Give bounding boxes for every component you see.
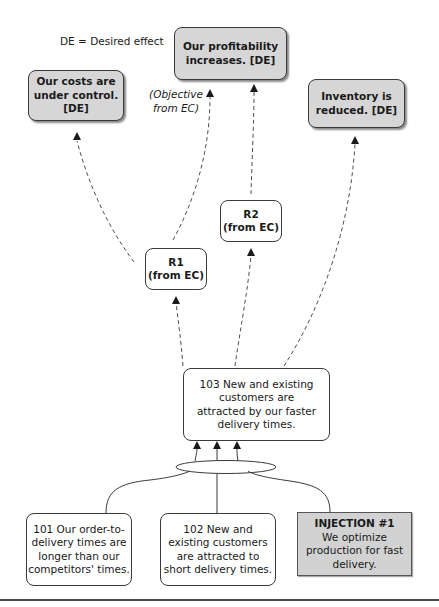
line-ellipse-to-103-right (237, 449, 238, 461)
entity-101-line2: delivery times are (31, 536, 126, 550)
arrowhead-inventory (351, 136, 359, 144)
injection-line3: delivery. (332, 558, 376, 572)
r2-box: R2 (from EC) (220, 200, 282, 242)
bottom-divider (0, 599, 439, 601)
objective-note-line1: (Objective (146, 88, 206, 102)
de-inventory-line1: Inventory is (321, 90, 392, 104)
arrowhead-r1 (172, 296, 180, 304)
and-connector-ellipse (176, 461, 276, 474)
de-costs-line2: under control. (34, 89, 118, 103)
entity-101-box: 101 Our order-to- delivery times are lon… (26, 513, 132, 586)
entity-103-line4: delivery times. (217, 418, 295, 432)
r1-box: R1 (from EC) (145, 248, 207, 290)
arrowhead-103-right (233, 441, 241, 449)
objective-note-line2: from EC) (146, 102, 206, 116)
arrow-r2-to-profitability (251, 92, 254, 194)
entity-101-line3: longer than our (38, 550, 119, 564)
entity-102-line3: are attracted to (177, 550, 260, 564)
arrowhead-costs (73, 132, 81, 140)
arrow-103-to-inventory (284, 144, 355, 366)
line-101-to-ellipse (106, 471, 190, 513)
de-costs-box: Our costs are under control. [DE] (28, 70, 124, 121)
de-profitability-box: Our profitability increases. [DE] (174, 27, 287, 80)
injection-line1: We optimize (322, 531, 387, 545)
injection-title: INJECTION #1 (314, 517, 394, 531)
de-inventory-box: Inventory is reduced. [DE] (308, 79, 405, 128)
entity-102-line2: existing customers (168, 536, 267, 550)
r1-line1: R1 (168, 256, 183, 270)
entity-103-box: 103 New and existing customers are attra… (183, 368, 330, 441)
r1-line2: (from EC) (148, 269, 204, 283)
entity-102-line1: 102 New and (183, 523, 252, 537)
line-ellipse-to-103-left (195, 449, 197, 461)
de-costs-line3: [DE] (63, 102, 89, 116)
arrowhead-profitability-right (250, 84, 258, 92)
injection-line2: production for fast (306, 544, 403, 558)
entity-103-line1: 103 New and existing (200, 378, 314, 392)
entity-101-line1: 101 Our order-to- (33, 523, 125, 537)
entity-102-line4: short delivery times. (164, 563, 272, 577)
arrowhead-r2 (247, 248, 255, 256)
r2-line2: (from EC) (223, 221, 279, 235)
line-injection-to-ellipse (248, 471, 330, 512)
objective-note: (Objective from EC) (146, 88, 206, 115)
arrow-103-to-r2 (235, 255, 251, 366)
arrow-r1-to-costs (77, 141, 134, 262)
r2-line1: R2 (243, 208, 258, 222)
de-profitability-line1: Our profitability (183, 40, 278, 54)
arrowhead-103-center (213, 441, 221, 449)
injection-box: INJECTION #1 We optimize production for … (297, 512, 412, 576)
entity-103-line2: customers are (219, 391, 294, 405)
de-inventory-line2: reduced. [DE] (316, 104, 397, 118)
legend-text: DE = Desired effect (60, 35, 164, 49)
de-profitability-line2: increases. [DE] (186, 54, 275, 68)
entity-102-box: 102 New and existing customers are attra… (160, 513, 276, 586)
arrow-r1-to-profitability (173, 97, 210, 240)
entity-103-line3: attracted by our faster (197, 405, 316, 419)
arrowhead-103-left (193, 441, 201, 449)
arrowhead-profitability-left (206, 89, 214, 97)
de-costs-line1: Our costs are (36, 75, 115, 89)
arrow-103-to-r1 (176, 302, 183, 366)
entity-101-line4: competitors' times. (28, 563, 130, 577)
